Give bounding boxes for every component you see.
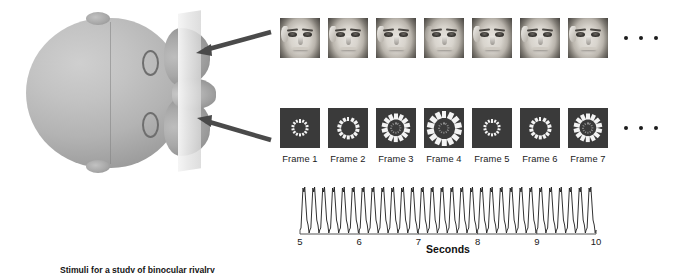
face-image [280, 18, 320, 58]
ring-inner-segment [592, 127, 594, 128]
eye-right [351, 32, 360, 37]
ellipsis-dot [654, 126, 658, 130]
eye-right [399, 32, 408, 37]
hair-highlight [569, 26, 576, 42]
ellipsis-dot [654, 36, 658, 40]
mouth [580, 47, 597, 50]
face-stimulus-thumbnail [328, 18, 368, 58]
face-frame-cell [424, 18, 464, 58]
ring-frame-cell: Frame 5 [472, 108, 512, 165]
face-image [424, 18, 464, 58]
eye-left [480, 32, 489, 37]
eye-right [543, 32, 552, 37]
ring-inner-segment [591, 129, 594, 131]
hair-highlight [521, 26, 528, 42]
head-diagram-panel [0, 0, 270, 190]
axis-tick-label: 8 [475, 236, 480, 247]
face-frame-cell [472, 18, 512, 58]
ring-segment [442, 139, 447, 146]
ring-inner-segment [448, 127, 450, 128]
eye-left [384, 32, 393, 37]
nose [586, 36, 591, 45]
ring-image [424, 108, 464, 148]
hair-highlight [425, 26, 432, 42]
ring-stimulus-thumbnail [568, 108, 608, 148]
ellipsis-dot [624, 36, 628, 40]
face-frame-cell [280, 18, 320, 58]
face-frame-cell [328, 18, 368, 58]
face-stimulus-thumbnail [520, 18, 560, 58]
ellipsis-dot [639, 36, 643, 40]
waveform-trace [300, 187, 596, 233]
eye-left [432, 32, 441, 37]
mouth [532, 47, 549, 50]
mouth [292, 47, 309, 50]
ring-segment [491, 133, 493, 136]
frame-label: Frame 5 [472, 154, 512, 165]
axis-tick-label: 10 [591, 236, 602, 247]
ring-inner-segment [447, 129, 450, 131]
figure-caption: Stimuli for a study of binocular rivalry [60, 265, 215, 273]
ring-frame-cell: Frame 2 [328, 108, 368, 165]
ring-segment [586, 137, 590, 143]
ring-image [568, 108, 608, 148]
hair-highlight [329, 26, 336, 42]
axis-tick-label: 6 [357, 236, 362, 247]
face-stimulus-thumbnail [568, 18, 608, 58]
upper-stimulus-arrow [196, 32, 271, 56]
axis-tick-label: 5 [297, 236, 302, 247]
eye-right [303, 32, 312, 37]
lower-stimulus-arrow [197, 115, 271, 140]
face-stimulus-thumbnail [376, 18, 416, 58]
ring-segment [529, 128, 534, 132]
frame-label: Frame 6 [520, 154, 560, 165]
ring-inner-segment [438, 127, 440, 128]
frame-label: Frame 1 [280, 154, 320, 165]
frame-label: Frame 3 [376, 154, 416, 165]
face-stimulus-thumbnail [472, 18, 512, 58]
ring-flicker-stimulus-sequence: Frame 1 Frame 2 Frame 3 Frame 4 Frame 5 [280, 108, 608, 165]
frame-label: Frame 7 [568, 154, 608, 165]
ring-inner-segment [400, 127, 402, 128]
face-stimulus-sequence [280, 18, 608, 58]
nose [442, 36, 447, 45]
ring-segment [442, 111, 447, 118]
face-stimulus-thumbnail [424, 18, 464, 58]
ring-image [472, 108, 512, 148]
hair-highlight [281, 26, 288, 42]
ring-stimulus-thumbnail [472, 108, 512, 148]
ring-stimulus-thumbnail [424, 108, 464, 148]
ring-row-ellipsis [624, 126, 658, 130]
face-image [472, 18, 512, 58]
face-row-ellipsis [624, 36, 658, 40]
eye-right [591, 32, 600, 37]
frame-label: Frame 2 [328, 154, 368, 165]
mouth [340, 47, 357, 50]
nose [298, 36, 303, 45]
axis-tick-label: 9 [534, 236, 539, 247]
ellipsis-dot [639, 126, 643, 130]
ring-inner-segment [390, 127, 392, 128]
face-image [328, 18, 368, 58]
figure-root: Frame 1 Frame 2 Frame 3 Frame 4 Frame 5 [0, 0, 677, 273]
ring-stimulus-thumbnail [376, 108, 416, 148]
mouth [388, 47, 405, 50]
face-image [568, 18, 608, 58]
ring-segment [539, 117, 542, 121]
ring-image [280, 108, 320, 148]
eye-right [447, 32, 456, 37]
ring-segment [347, 117, 350, 121]
ring-image [520, 108, 560, 148]
mouth [484, 47, 501, 50]
ring-stimulus-thumbnail [280, 108, 320, 148]
ring-segment [539, 135, 542, 139]
ring-image [328, 108, 368, 148]
face-stimulus-thumbnail [280, 18, 320, 58]
ellipsis-dot [624, 126, 628, 130]
ring-segment [394, 137, 398, 143]
ring-stimulus-thumbnail [520, 108, 560, 148]
face-frame-cell [520, 18, 560, 58]
ring-stimulus-thumbnail [328, 108, 368, 148]
frame-label: Frame 4 [424, 154, 464, 165]
ring-segment [347, 135, 350, 139]
